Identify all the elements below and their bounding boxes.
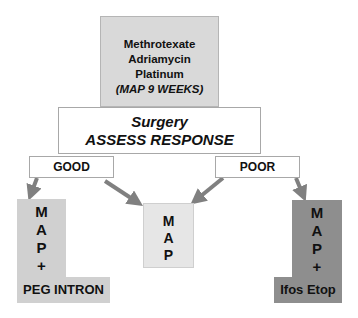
surgery-label: Surgery [59, 113, 260, 131]
letter: A [17, 221, 66, 239]
letter: A [144, 230, 193, 247]
drug-adriamycin: Adriamycin [101, 52, 218, 67]
letter: P [17, 239, 66, 257]
letter: + [292, 258, 342, 276]
duration-label: (MAP 9 WEEKS) [101, 82, 218, 97]
center-outcome-box: M A P [143, 203, 194, 268]
letter: P [144, 247, 193, 264]
letter: A [292, 222, 342, 240]
treatment-flow-diagram: Methrotexate Adriamycin Platinum (MAP 9 … [0, 0, 358, 318]
ifos-etop-label: Ifos Etop [274, 277, 342, 303]
drug-platinum: Platinum [101, 67, 218, 82]
arrow-poor-to-right [296, 178, 303, 195]
induction-chemo-box: Methrotexate Adriamycin Platinum (MAP 9 … [100, 16, 219, 107]
surgery-box: Surgery ASSESS RESPONSE [58, 107, 261, 154]
letter: M [17, 203, 66, 221]
arrow-poor-to-center [196, 178, 223, 200]
peg-intron-label: PEG INTRON [17, 277, 110, 303]
drug-methotrexate: Methrotexate [101, 37, 218, 52]
arrow-good-to-left [31, 178, 37, 194]
assess-response-label: ASSESS RESPONSE [59, 131, 260, 149]
letter: + [17, 257, 66, 275]
letter: M [292, 204, 342, 222]
letter: M [144, 213, 193, 230]
poor-response-box: POOR [215, 156, 300, 178]
good-response-box: GOOD [29, 156, 114, 178]
arrow-good-to-center [105, 181, 137, 202]
letter: P [292, 240, 342, 258]
